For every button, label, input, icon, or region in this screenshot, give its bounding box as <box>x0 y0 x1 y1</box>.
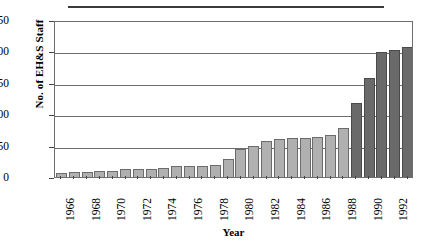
x-axis-tick-mark <box>99 176 100 179</box>
x-axis-tick-mark <box>240 176 241 179</box>
x-axis-tick-labels: 1966196819701972197419761978198019821984… <box>54 179 413 223</box>
x-axis-tick-label: 1986 <box>321 198 333 221</box>
y-axis-tick-label: 50 <box>0 141 9 153</box>
x-axis-tick-label: 1972 <box>142 198 154 221</box>
x-axis-tick-label: 1990 <box>373 198 385 221</box>
x-axis-tick-mark <box>73 176 74 179</box>
bar <box>274 139 285 177</box>
x-axis-tick-mark <box>394 176 395 179</box>
bar <box>312 137 323 177</box>
bar <box>364 78 375 177</box>
y-axis-tick-label: 100 <box>0 109 9 121</box>
x-axis-tick-mark <box>227 176 228 179</box>
bar <box>389 50 400 177</box>
y-axis-tick-mark <box>49 21 54 22</box>
x-axis-tick-mark <box>214 176 215 179</box>
y-axis-tick-label: 250 <box>0 15 9 27</box>
x-axis-tick-mark <box>330 176 331 179</box>
x-axis-tick-label: 1978 <box>219 198 231 221</box>
bar <box>69 172 80 177</box>
x-axis-tick-mark <box>150 176 151 179</box>
y-axis-tick-label: 200 <box>0 46 9 58</box>
x-axis-tick-mark <box>253 176 254 179</box>
top-rule-divider <box>68 6 384 8</box>
x-axis-tick-label: 1976 <box>193 198 205 221</box>
x-axis-tick-label: 1982 <box>270 198 282 221</box>
bar <box>248 146 259 177</box>
x-axis-tick-mark <box>278 176 279 179</box>
x-axis-tick-mark <box>266 176 267 179</box>
bar <box>376 52 387 177</box>
bar <box>300 138 311 177</box>
x-axis-tick-mark <box>112 176 113 179</box>
bar-series <box>55 22 412 177</box>
x-axis-tick-mark <box>163 176 164 179</box>
x-axis-tick-mark <box>176 176 177 179</box>
y-axis-tick-mark <box>49 115 54 116</box>
x-axis-tick-mark <box>137 176 138 179</box>
x-axis-tick-mark <box>291 176 292 179</box>
x-axis-tick-mark <box>125 176 126 179</box>
x-axis-tick-mark <box>189 176 190 179</box>
y-axis-title: No. of EH&S Staff <box>33 0 45 149</box>
x-axis-tick-label: 1984 <box>296 198 308 221</box>
x-axis-tick-label: 1988 <box>347 198 359 221</box>
bar <box>338 128 349 177</box>
bar <box>325 135 336 177</box>
x-axis-tick-mark <box>60 176 61 179</box>
x-axis-tick-mark <box>381 176 382 179</box>
x-axis-tick-label: 1970 <box>116 198 128 221</box>
bar <box>235 149 246 177</box>
x-axis-tick-mark <box>342 176 343 179</box>
bar <box>158 168 169 177</box>
bar <box>402 47 413 177</box>
x-axis-tick-mark <box>368 176 369 179</box>
x-axis-tick-mark <box>317 176 318 179</box>
y-axis-tick-mark <box>49 52 54 53</box>
y-axis-tick-mark <box>49 178 54 179</box>
x-axis-tick-mark <box>304 176 305 179</box>
y-axis-tick-label: 0 <box>0 172 9 184</box>
bar <box>351 103 362 177</box>
y-axis-tick-label: 150 <box>0 78 9 90</box>
x-axis-tick-mark <box>201 176 202 179</box>
x-axis-tick-label: 1980 <box>244 198 256 221</box>
x-axis-tick-mark <box>407 176 408 179</box>
x-axis-tick-label: 1974 <box>167 198 179 221</box>
x-axis-tick-label: 1992 <box>398 198 410 221</box>
bar <box>223 159 234 177</box>
x-axis-tick-mark <box>355 176 356 179</box>
y-axis-tick-mark <box>49 84 54 85</box>
chart-figure: No. of EH&S Staff 1966196819701972197419… <box>0 0 427 245</box>
x-axis-tick-label: 1968 <box>91 198 103 221</box>
bar <box>287 138 298 177</box>
y-axis-tick-mark <box>49 147 54 148</box>
x-axis-tick-mark <box>86 176 87 179</box>
x-axis-title: Year <box>54 226 413 238</box>
plot-area <box>54 21 413 178</box>
bar <box>261 141 272 177</box>
x-axis-tick-label: 1966 <box>65 198 77 221</box>
